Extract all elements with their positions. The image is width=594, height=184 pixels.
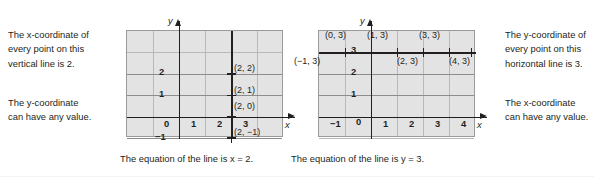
x-tick-minus1: −1 bbox=[330, 118, 341, 129]
y-axis-label: y bbox=[360, 15, 365, 26]
gridline-h bbox=[127, 52, 282, 53]
gridline-h-y2 bbox=[127, 74, 282, 75]
left-caption: The equation of the line is x = 2. bbox=[120, 153, 253, 164]
point-label-minus1-3: (−1, 3) bbox=[294, 56, 320, 66]
point-2-3 bbox=[419, 48, 428, 57]
bottom-divider bbox=[0, 176, 594, 177]
x-axis-arrow-icon bbox=[480, 113, 487, 119]
point-label-0-3: (0, 3) bbox=[325, 30, 346, 40]
gridline-h bbox=[319, 138, 474, 139]
y-axis-label: y bbox=[168, 15, 173, 26]
gridline-h-y1 bbox=[319, 95, 474, 96]
left-note-bottom: The y-coordinate can have any value. bbox=[8, 96, 118, 125]
point-label-1-3: (1, 3) bbox=[367, 30, 388, 40]
y-axis-arrow-icon bbox=[175, 19, 181, 26]
x-tick-1: 1 bbox=[191, 118, 196, 129]
point-label-2-2: (2, 2) bbox=[234, 63, 255, 73]
y-axis-arrow-icon bbox=[367, 19, 373, 26]
point-minus1-3 bbox=[341, 48, 350, 57]
gridline-h-ym1 bbox=[127, 138, 282, 139]
point-0-3 bbox=[367, 48, 376, 57]
point-label-4-3: (4, 3) bbox=[449, 56, 470, 66]
point-label-2-3: (2, 3) bbox=[397, 56, 418, 66]
gridline-v bbox=[345, 31, 346, 136]
x-tick-2: 2 bbox=[409, 118, 414, 129]
y-tick-1: 1 bbox=[159, 88, 164, 99]
x-axis-label: x bbox=[285, 119, 290, 130]
point-label-2-minus1: (2, −1) bbox=[234, 127, 260, 137]
x-tick-1: 1 bbox=[383, 118, 388, 129]
right-note-top: The y-coordinate of every point on this … bbox=[505, 28, 594, 71]
gridline-v bbox=[205, 31, 206, 136]
point-label-2-0: (2, 0) bbox=[234, 101, 255, 111]
y-axis-line bbox=[179, 21, 181, 139]
gridline-h-y2 bbox=[319, 74, 474, 75]
x-axis-label: x bbox=[477, 119, 482, 130]
left-coordinate-grid bbox=[126, 30, 283, 137]
y-tick-minus1: −1 bbox=[155, 131, 166, 142]
x-axis-line bbox=[127, 117, 295, 119]
left-note-top: The x-coordinate of every point on this … bbox=[8, 28, 118, 71]
x-tick-0: 0 bbox=[164, 118, 169, 129]
right-caption: The equation of the line is y = 3. bbox=[291, 153, 424, 164]
gridline-h-y1 bbox=[127, 95, 282, 96]
right-coordinate-grid bbox=[318, 30, 475, 137]
x-axis-arrow-icon bbox=[288, 113, 295, 119]
x-tick-3: 3 bbox=[435, 118, 440, 129]
point-label-2-1: (2, 1) bbox=[234, 85, 255, 95]
gridline-v bbox=[153, 31, 154, 136]
right-example-panel: The y-coordinate of every point on this … bbox=[297, 0, 594, 184]
point-label-3-3: (3, 3) bbox=[419, 30, 440, 40]
y-tick-1: 1 bbox=[351, 88, 356, 99]
y-tick-3: 3 bbox=[351, 44, 356, 55]
x-tick-0: 0 bbox=[356, 116, 361, 127]
right-note-bottom: The x-coordinate can have any value. bbox=[505, 96, 594, 125]
gridline-v bbox=[397, 31, 398, 136]
gridline-v bbox=[449, 31, 450, 136]
y-tick-2: 2 bbox=[159, 66, 164, 77]
x-tick-4: 4 bbox=[461, 118, 466, 129]
line-x-equals-2 bbox=[231, 31, 233, 138]
gridline-v bbox=[423, 31, 424, 136]
gridline-v bbox=[257, 31, 258, 136]
y-tick-2: 2 bbox=[351, 66, 356, 77]
left-example-panel: The x-coordinate of every point on this … bbox=[0, 0, 297, 184]
x-tick-2: 2 bbox=[217, 118, 222, 129]
point-2-0 bbox=[227, 113, 236, 122]
